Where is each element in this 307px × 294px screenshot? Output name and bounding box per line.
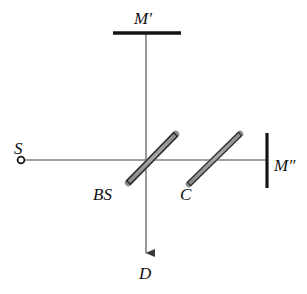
- compensator-body: [189, 134, 240, 184]
- label-beam-splitter: BS: [93, 186, 112, 203]
- diagram-canvas: [0, 0, 307, 294]
- beam-splitter-body: [129, 135, 176, 183]
- label-source: S: [14, 140, 23, 157]
- label-mirror-top: M′: [134, 10, 152, 27]
- label-mirror-right: M″: [274, 157, 295, 174]
- compensator-plate: [187, 132, 241, 185]
- beam-splitter-plate: [127, 133, 178, 185]
- label-compensator: C: [180, 186, 191, 203]
- interferometer-diagram: M′ S M″ BS C D: [0, 0, 307, 294]
- label-detector: D: [139, 265, 151, 282]
